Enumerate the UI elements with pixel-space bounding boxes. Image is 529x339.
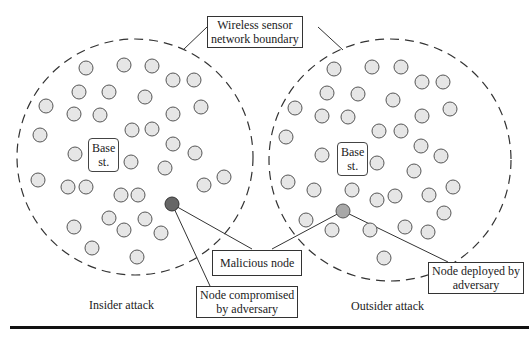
boundary-leader-left xyxy=(183,27,207,50)
boundary-label-line-1: Wireless sensor xyxy=(211,18,299,32)
bottom-rule-divider xyxy=(10,326,529,329)
malicious-node-label: Malicious node xyxy=(212,250,302,276)
boundary-label-line-2: network boundary xyxy=(211,32,299,46)
insider-base-line-2: st. xyxy=(92,155,115,169)
malicious-leader-insider xyxy=(172,204,252,249)
network-boundary-label: Wireless sensor network boundary xyxy=(207,16,303,48)
insider-sensor-nodes xyxy=(31,58,231,264)
compromised-line-1: Node compromised xyxy=(200,288,294,302)
outsider-network-boundary xyxy=(269,39,511,281)
insider-base-station: Base st. xyxy=(88,138,119,172)
outsider-base-line-1: Base xyxy=(341,145,364,159)
insider-attack-caption: Insider attack xyxy=(89,298,154,313)
node-compromised-label: Node compromised by adversary xyxy=(196,286,298,318)
compromised-malicious-node xyxy=(165,197,179,211)
boundary-leader-right xyxy=(318,27,343,50)
node-deployed-label: Node deployed by adversary xyxy=(428,262,524,294)
insider-base-line-1: Base xyxy=(92,141,115,155)
outsider-base-line-2: st. xyxy=(341,159,364,173)
deployed-malicious-node xyxy=(336,204,350,218)
outsider-sensor-nodes xyxy=(279,60,460,265)
deployed-line-2: adversary xyxy=(432,278,520,292)
compromised-leader xyxy=(172,204,210,286)
deployed-line-1: Node deployed by xyxy=(432,264,520,278)
outsider-base-station: Base st. xyxy=(337,142,368,176)
outsider-attack-caption: Outsider attack xyxy=(351,299,424,314)
compromised-line-2: by adversary xyxy=(200,302,294,316)
